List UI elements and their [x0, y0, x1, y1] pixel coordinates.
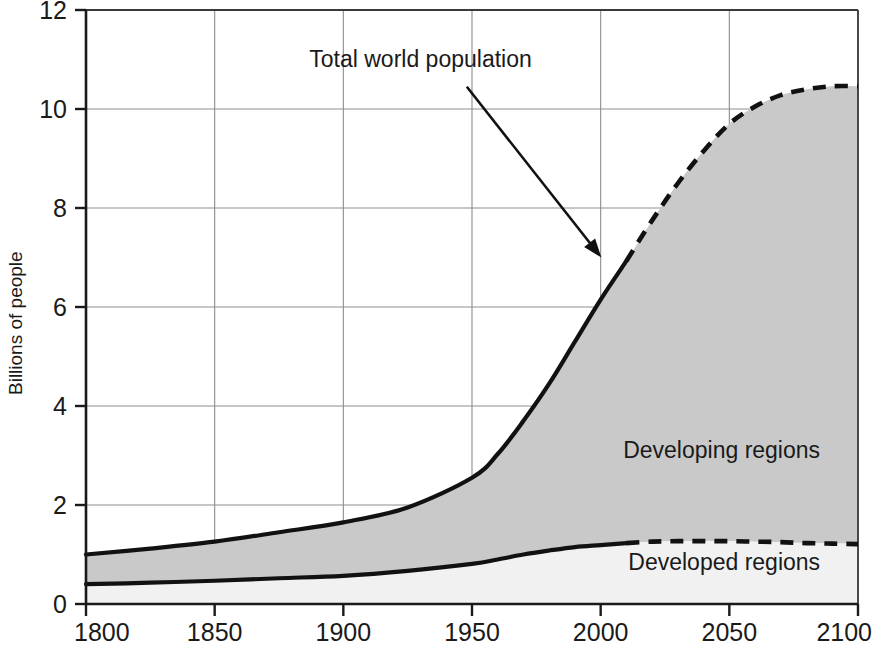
x-tick-label: 2100	[816, 618, 872, 645]
y-tick-label: 6	[53, 293, 67, 321]
y-tick-label: 2	[53, 491, 67, 519]
x-tick-label: 1900	[316, 618, 372, 645]
x-tick-label: 2050	[702, 618, 758, 645]
x-tick-label: 1800	[74, 618, 130, 645]
y-tick-label: 4	[53, 392, 67, 420]
series-label-developed-regions: Developed regions	[628, 549, 820, 575]
population-chart-figure: 1800185019001950200020502100 024681012 B…	[0, 0, 883, 645]
y-axis-title-group: Billions of people	[5, 251, 26, 395]
x-axis-tick-labels: 1800185019001950200020502100	[74, 618, 872, 645]
x-tick-label: 1850	[187, 618, 243, 645]
annotation-label-total-world-population: Total world population	[309, 46, 531, 72]
y-axis-tick-labels: 024681012	[39, 0, 67, 618]
chart-canvas: 1800185019001950200020502100 024681012 B…	[0, 0, 883, 645]
y-tick-label: 12	[39, 0, 67, 24]
y-axis-title: Billions of people	[5, 251, 26, 395]
y-tick-label: 8	[53, 194, 67, 222]
y-tick-label: 10	[39, 95, 67, 123]
series-label-developing-regions: Developing regions	[623, 437, 820, 463]
x-tick-label: 1950	[444, 618, 500, 645]
x-tick-label: 2000	[573, 618, 629, 645]
y-tick-label: 0	[53, 590, 67, 618]
